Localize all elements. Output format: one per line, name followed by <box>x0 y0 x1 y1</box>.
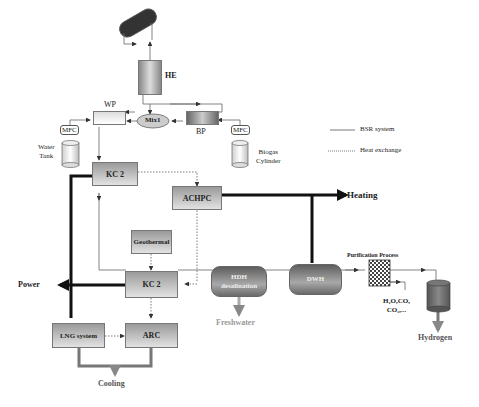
dwh-unit: DWH <box>289 264 342 295</box>
achpc-unit: ACHPC <box>172 186 222 210</box>
kalina-cycle-bottom: KC 2 <box>125 271 178 298</box>
geothermal-source: Geothermal <box>131 230 172 254</box>
water-tank-icon <box>62 141 79 168</box>
output-cooling: Cooling <box>98 379 125 388</box>
he-label: HE <box>165 71 177 80</box>
heat-exchanger-he <box>138 60 162 95</box>
lng-system: LNG system <box>52 323 105 348</box>
mfc-biogas: MFC <box>231 125 250 135</box>
purification-label: Purification Process <box>347 252 398 258</box>
mixer-label: Mix1 <box>145 116 161 124</box>
mfc-water: MFC <box>60 125 79 135</box>
wp-label: WP <box>104 100 116 109</box>
reactor-pill-icon <box>117 6 160 40</box>
arc-unit: ARC <box>125 323 178 348</box>
biogas-preheater-bp <box>186 111 219 125</box>
legend-heat-exchange: Heat exchange <box>360 146 401 154</box>
purification-filter-icon <box>369 260 390 286</box>
output-freshwater: Freshwater <box>216 318 255 327</box>
legend-bsr-system: BSR system <box>360 125 394 133</box>
biogas-cylinder-icon <box>232 141 248 168</box>
output-power: Power <box>18 280 40 289</box>
bp-label: BP <box>196 127 206 136</box>
biogas-cylinder-label: Biogas Cylinder <box>256 148 281 166</box>
water-tank-label: Water Tank <box>38 143 55 161</box>
water-preheater-wp <box>93 111 126 125</box>
hdh-desalination: HDH desalination <box>211 266 267 297</box>
byproducts-label: H₂O,CO, CO₂,... <box>383 297 410 315</box>
output-heating: Heating <box>347 190 378 200</box>
process-diagram: HE WP Mix1 BP MFC MFC Water Tank Biogas … <box>0 0 479 407</box>
hydrogen-tank-icon <box>427 280 450 312</box>
kalina-cycle-top: KC 2 <box>92 162 138 186</box>
output-hydrogen: Hydrogen <box>418 333 452 342</box>
